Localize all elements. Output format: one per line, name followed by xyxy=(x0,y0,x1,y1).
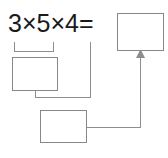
branch-4-vertical xyxy=(90,42,91,98)
arrow-to-result-horizontal xyxy=(87,127,141,128)
answer-box-partial-product[interactable] xyxy=(40,110,87,143)
equation-expression: 3×5×4= xyxy=(8,8,94,38)
math-worksheet-diagram: 3×5×4= xyxy=(0,0,168,158)
brace-3x5-right-stub xyxy=(53,42,54,52)
brace-3x5-bar xyxy=(14,51,54,52)
answer-box-final-result[interactable] xyxy=(117,13,164,51)
branch-join-horizontal xyxy=(35,97,91,98)
arrow-to-result-vertical xyxy=(140,56,141,128)
answer-box-product-3x5[interactable] xyxy=(12,57,58,91)
